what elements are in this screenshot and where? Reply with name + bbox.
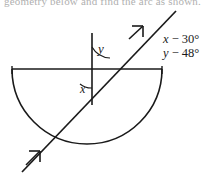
ray-arrowhead-upper	[129, 26, 143, 39]
geometry-figure: geometry below and find the arc as shown…	[0, 0, 217, 174]
transversal-ray	[22, 11, 176, 172]
cropped-header-text: geometry below and find the arc as shown…	[4, 0, 217, 7]
angle-label-x: x	[79, 82, 86, 96]
diagram-canvas: y x x − 30° y − 48°	[0, 0, 217, 174]
annotation-x-expression: x − 30°	[162, 32, 199, 46]
angle-label-y: y	[96, 41, 104, 56]
annotation-y-expression: y − 48°	[161, 46, 199, 60]
annotation-y-rest: − 48°	[169, 46, 200, 60]
semicircle-arc	[12, 69, 162, 144]
ray-arrowhead-lower	[26, 151, 40, 165]
annotation-x-rest: − 30°	[169, 32, 200, 46]
